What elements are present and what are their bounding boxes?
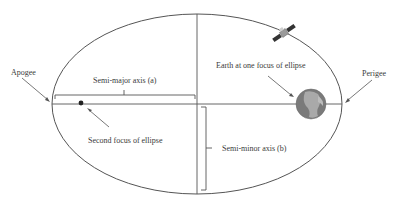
- orbit-diagram-graphic: [0, 0, 398, 203]
- satellite-icon: [270, 21, 296, 43]
- perigee-label: Perigee: [362, 70, 386, 78]
- apogee-label: Apogee: [11, 69, 36, 77]
- second-focus-pointer: [87, 108, 109, 127]
- semi-minor-bracket: [201, 107, 212, 190]
- apogee-pointer: [22, 78, 50, 102]
- orbit-diagram: Apogee Perigee Semi-major axis (a) Semi-…: [0, 0, 398, 203]
- earth-focus-pointer: [268, 76, 294, 97]
- second-focus-dot: [79, 101, 84, 106]
- second-focus-label: Second focus of ellipse: [88, 137, 162, 145]
- semi-major-axis-label: Semi-major axis (a): [93, 77, 157, 85]
- earth-icon: [296, 89, 326, 119]
- semi-major-bracket: [55, 90, 195, 99]
- earth-focus-label: Earth at one focus of ellipse: [216, 62, 306, 70]
- perigee-pointer: [345, 80, 372, 103]
- semi-minor-axis-label: Semi-minor axis (b): [222, 145, 286, 153]
